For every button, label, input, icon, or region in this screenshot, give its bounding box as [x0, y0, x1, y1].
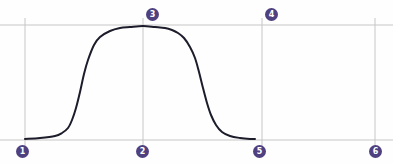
plateau-curve — [25, 26, 255, 139]
gridlines-group — [0, 18, 393, 150]
marker-6[interactable]: 6 — [369, 145, 382, 158]
marker-5[interactable]: 5 — [253, 145, 266, 158]
diagram-canvas: 1 2 3 4 5 6 — [0, 0, 393, 164]
marker-2[interactable]: 2 — [136, 145, 149, 158]
marker-1[interactable]: 1 — [16, 145, 29, 158]
marker-3[interactable]: 3 — [146, 8, 159, 21]
curve-plot — [0, 0, 393, 164]
marker-4[interactable]: 4 — [265, 8, 278, 21]
